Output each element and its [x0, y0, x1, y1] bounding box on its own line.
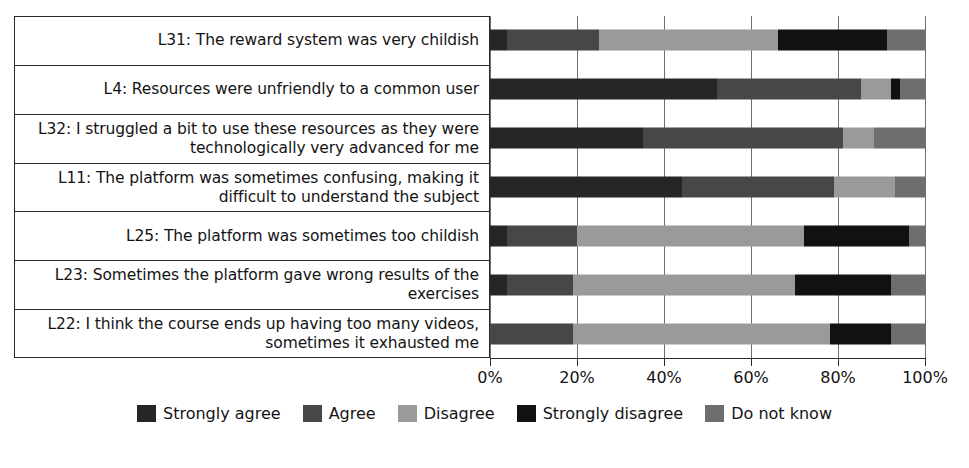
category-label-cell: L32: I struggled a bit to use these reso…	[14, 114, 490, 163]
legend-swatch-icon	[517, 405, 536, 422]
stacked-bar	[490, 30, 926, 51]
category-label: L11: The platform was sometimes confusin…	[21, 169, 479, 207]
tick-label-100: 100%	[902, 368, 948, 387]
category-label: L31: The reward system was very childish	[158, 31, 479, 50]
x-axis-ticks	[490, 358, 926, 366]
tick-label-20: 20%	[559, 368, 595, 387]
tick-80	[838, 358, 839, 366]
bar-segment-strongly-agree	[490, 79, 717, 100]
tick-100	[925, 358, 926, 366]
legend-label: Agree	[329, 404, 376, 423]
category-label-cell: L22: I think the course ends up having t…	[14, 309, 490, 358]
bar-segment-do-not-know	[891, 274, 926, 295]
plot-area: L31: The reward system was very childish…	[14, 16, 926, 358]
category-label: L4: Resources were unfriendly to a commo…	[104, 80, 479, 99]
legend-item-agree[interactable]: Agree	[303, 404, 376, 423]
x-axis-tick-labels: 0%20%40%60%80%100%	[490, 368, 926, 390]
bar-segment-disagree	[843, 128, 874, 149]
bar-segment-disagree	[861, 79, 892, 100]
tick-label-40: 40%	[646, 368, 682, 387]
category-label-cell: L25: The platform was sometimes too chil…	[14, 211, 490, 260]
chart-legend: Strongly agreeAgreeDisagreeStrongly disa…	[0, 404, 969, 423]
stacked-bar	[490, 274, 926, 295]
bar-segment-strongly-agree	[490, 225, 507, 246]
legend-label: Strongly agree	[163, 404, 281, 423]
category-label-cell: L11: The platform was sometimes confusin…	[14, 163, 490, 212]
tick-20	[577, 358, 578, 366]
bar-segment-do-not-know	[900, 79, 926, 100]
bar-segment-agree	[682, 177, 835, 198]
bar-segment-agree	[507, 225, 577, 246]
bar-segment-strongly-agree	[490, 177, 682, 198]
stacked-bar	[490, 79, 926, 100]
bar-segment-disagree	[577, 225, 804, 246]
legend-swatch-icon	[398, 405, 417, 422]
stacked-bar-chart: L31: The reward system was very childish…	[0, 0, 969, 468]
legend-label: Disagree	[424, 404, 495, 423]
legend-item-strongly-agree[interactable]: Strongly agree	[137, 404, 281, 423]
bar-segment-strongly-disagree	[795, 274, 891, 295]
bar-segment-strongly-disagree	[778, 30, 887, 51]
bar-segment-agree	[717, 79, 861, 100]
bar-segment-disagree	[599, 30, 778, 51]
category-label: L23: Sometimes the platform gave wrong r…	[21, 266, 479, 304]
bar-segment-strongly-disagree	[804, 225, 909, 246]
bar-segment-strongly-disagree	[830, 323, 891, 344]
tick-40	[664, 358, 665, 366]
bar-segment-disagree	[573, 274, 795, 295]
tick-label-0: 0%	[477, 368, 502, 387]
bar-segment-agree	[643, 128, 844, 149]
bar-segment-disagree	[573, 323, 830, 344]
bar-segment-disagree	[834, 177, 895, 198]
tick-60	[751, 358, 752, 366]
stacked-bar	[490, 323, 926, 344]
stacked-bar	[490, 225, 926, 246]
bar-segment-agree	[490, 323, 573, 344]
tick-0	[490, 358, 491, 366]
bar-segment-do-not-know	[895, 177, 926, 198]
stacked-bar	[490, 177, 926, 198]
tick-label-80: 80%	[820, 368, 856, 387]
legend-item-strongly-disagree[interactable]: Strongly disagree	[517, 404, 684, 423]
bar-segment-do-not-know	[909, 225, 926, 246]
category-label: L22: I think the course ends up having t…	[21, 315, 479, 353]
bar-segment-do-not-know	[891, 323, 926, 344]
legend-swatch-icon	[705, 405, 724, 422]
legend-item-do-not-know[interactable]: Do not know	[705, 404, 832, 423]
tick-label-60: 60%	[733, 368, 769, 387]
bar-segment-strongly-agree	[490, 128, 643, 149]
legend-label: Strongly disagree	[543, 404, 684, 423]
category-label: L32: I struggled a bit to use these reso…	[21, 120, 479, 158]
category-label: L25: The platform was sometimes too chil…	[126, 227, 479, 246]
bar-segment-do-not-know	[887, 30, 926, 51]
category-label-cell: L4: Resources were unfriendly to a commo…	[14, 65, 490, 114]
bar-segment-strongly-disagree	[891, 79, 900, 100]
legend-label: Do not know	[731, 404, 832, 423]
legend-item-disagree[interactable]: Disagree	[398, 404, 495, 423]
legend-swatch-icon	[137, 405, 156, 422]
stacked-bar	[490, 128, 926, 149]
bar-segment-strongly-agree	[490, 30, 507, 51]
bar-segment-strongly-agree	[490, 274, 507, 295]
bar-segment-agree	[507, 274, 572, 295]
legend-swatch-icon	[303, 405, 322, 422]
bar-segment-agree	[507, 30, 599, 51]
category-label-cell: L31: The reward system was very childish	[14, 16, 490, 65]
bar-segment-do-not-know	[874, 128, 926, 149]
category-label-cell: L23: Sometimes the platform gave wrong r…	[14, 260, 490, 309]
